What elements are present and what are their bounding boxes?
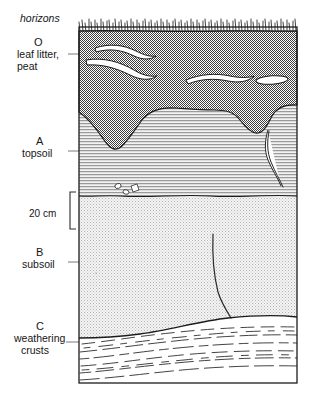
horizon-code-o: O [34, 36, 43, 48]
horizon-name-c-line1: weathering [13, 332, 66, 344]
soil-profile-diagram: horizons O leaf litter, peat A topsoil B… [0, 0, 313, 401]
horizon-name-a: topsoil [22, 147, 52, 159]
profile-block [79, 19, 297, 383]
horizon-name-o-line1: leaf litter, [17, 48, 59, 60]
horizon-name-c-line2: crusts [21, 344, 49, 356]
horizon-code-b: B [36, 246, 43, 258]
horizon-code-a: A [36, 135, 44, 147]
horizon-name-o-line2: peat [17, 60, 38, 72]
horizon-code-c: C [36, 320, 44, 332]
figure-title: horizons [20, 12, 60, 24]
scale-bar-label: 20 cm [29, 208, 56, 219]
horizon-b-speck [95, 272, 96, 273]
horizon-name-b: subsoil [22, 258, 55, 270]
